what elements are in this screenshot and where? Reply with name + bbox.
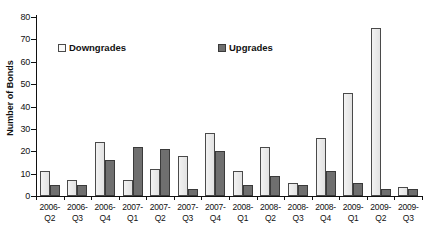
bar-group [367,17,395,196]
x-label-quarter: Q3 [174,213,202,224]
legend-item-downgrades: Downgrades [58,42,126,53]
x-label-quarter: Q4 [91,213,119,224]
bar-upgrades [133,147,143,196]
x-label-year: 2009- [367,202,395,213]
bar-downgrades [371,28,381,196]
x-label-year: 2008- [229,202,257,213]
x-label-year: 2008- [284,202,312,213]
x-label-year: 2006- [64,202,92,213]
bar-downgrades [343,93,353,196]
y-axis-tick-label: 40 [0,102,30,112]
bar-upgrades [105,160,115,196]
x-axis-tick-mark [36,196,37,200]
x-axis-tick-label: 2006-Q2 [36,202,64,224]
bar-upgrades [160,149,170,196]
bar-group [146,17,174,196]
bar-group [395,17,423,196]
x-axis-tick-label: 2009-Q1 [339,202,367,224]
x-label-quarter: Q1 [119,213,147,224]
bar-chart: Number of Bonds 01020304050607080 2006-Q… [0,0,431,235]
bar-group [339,17,367,196]
y-axis-tick-label: 80 [0,12,30,22]
bar-upgrades [326,171,336,196]
x-axis-tick-label: 2008-Q1 [229,202,257,224]
y-axis-tick-label: 70 [0,34,30,44]
y-axis-tick-label: 0 [0,191,30,201]
y-axis-tick-label: 50 [0,79,30,89]
bar-downgrades [316,138,326,196]
x-axis-tick-mark [174,196,175,200]
bar-downgrades [398,187,408,196]
bar-downgrades [95,142,105,196]
bar-upgrades [353,183,363,196]
y-axis-label-wrap: Number of Bonds [2,0,16,196]
x-label-year: 2006- [91,202,119,213]
bar-downgrades [150,169,160,196]
legend-label-downgrades: Downgrades [69,42,126,53]
bar-upgrades [381,189,391,196]
bar-upgrades [77,185,87,196]
bar-downgrades [205,133,215,196]
x-axis-tick-label: 2008-Q2 [257,202,285,224]
bar-downgrades [178,156,188,196]
x-axis-tick-label: 2008-Q4 [312,202,340,224]
x-label-year: 2007- [146,202,174,213]
x-label-year: 2008- [312,202,340,213]
x-axis-tick-label: 2007-Q1 [119,202,147,224]
x-label-quarter: Q2 [146,213,174,224]
x-axis-tick-mark [119,196,120,200]
x-axis-tick-label: 2007-Q2 [146,202,174,224]
x-axis-ticks [36,196,422,201]
x-label-year: 2009- [395,202,423,213]
bar-upgrades [50,185,60,196]
bar-downgrades [123,180,133,196]
bar-upgrades [243,185,253,196]
x-axis-tick-mark [257,196,258,200]
bar-downgrades [40,171,50,196]
legend-swatch-upgrades-icon [218,44,226,52]
x-label-quarter: Q3 [284,213,312,224]
x-axis-tick-mark [284,196,285,200]
x-label-quarter: Q1 [339,213,367,224]
x-label-year: 2009- [339,202,367,213]
bar-group [174,17,202,196]
y-axis-tick-label: 10 [0,169,30,179]
x-axis-tick-label: 2006-Q3 [64,202,92,224]
bar-upgrades [215,151,225,196]
x-axis-tick-mark [201,196,202,200]
x-label-year: 2007- [201,202,229,213]
bar-upgrades [408,189,418,196]
x-label-quarter: Q2 [257,213,285,224]
x-axis-tick-mark [422,196,423,200]
y-axis-tick-label: 20 [0,146,30,156]
x-axis-tick-mark [339,196,340,200]
bar-downgrades [260,147,270,196]
bar-group [284,17,312,196]
legend-item-upgrades: Upgrades [218,42,273,53]
x-axis-tick-mark [229,196,230,200]
x-label-quarter: Q2 [36,213,64,224]
x-label-quarter: Q3 [64,213,92,224]
x-axis-tick-label: 2007-Q4 [201,202,229,224]
x-axis-tick-mark [146,196,147,200]
x-axis-tick-label: 2009-Q2 [367,202,395,224]
x-axis-tick-mark [312,196,313,200]
legend-label-upgrades: Upgrades [229,42,273,53]
bar-group [312,17,340,196]
x-axis-tick-mark [64,196,65,200]
x-label-quarter: Q4 [201,213,229,224]
x-axis-tick-label: 2006-Q4 [91,202,119,224]
bar-downgrades [288,183,298,196]
x-label-year: 2007- [174,202,202,213]
bar-downgrades [233,171,243,196]
x-axis-tick-label: 2009-Q3 [395,202,423,224]
x-label-quarter: Q3 [395,213,423,224]
x-axis-tick-mark [394,196,395,200]
x-axis-tick-label: 2008-Q3 [284,202,312,224]
x-label-quarter: Q1 [229,213,257,224]
bar-downgrades [67,180,77,196]
x-label-year: 2007- [119,202,147,213]
x-label-year: 2006- [36,202,64,213]
x-axis-tick-mark [91,196,92,200]
x-label-year: 2008- [257,202,285,213]
